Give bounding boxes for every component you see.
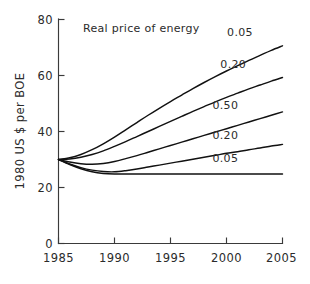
curve-label-1: 0.20 xyxy=(220,58,246,71)
y-tick-label-0: 0 xyxy=(45,237,53,251)
series-line-0.20-upper xyxy=(59,77,283,159)
chart-figure: 80 60 40 20 0 1985 1990 1995 2000 2005 1… xyxy=(0,0,310,284)
curve-label-4: 0.05 xyxy=(213,152,239,165)
curve-label-3: 0.20 xyxy=(213,129,239,142)
x-tick-label-1990: 1990 xyxy=(99,251,130,265)
x-tick-group xyxy=(59,238,227,244)
series-line-0.50 xyxy=(59,112,283,164)
curve-label-2: 0.50 xyxy=(213,99,239,112)
x-tick-label-1985: 1985 xyxy=(43,251,74,265)
x-tick-label-1995: 1995 xyxy=(155,251,186,265)
series-line-0.05-lower xyxy=(59,160,283,175)
x-tick-label-2000: 2000 xyxy=(211,251,242,265)
line-chart: 80 60 40 20 0 1985 1990 1995 2000 2005 1… xyxy=(0,0,310,284)
curve-label-0: 0.05 xyxy=(227,26,253,39)
chart-title: Real price of energy xyxy=(83,22,200,35)
y-tick-label-20: 20 xyxy=(38,181,53,195)
series-line-0.05 xyxy=(59,46,283,160)
y-tick-label-60: 60 xyxy=(38,69,53,83)
y-tick-label-40: 40 xyxy=(38,125,53,139)
series-line-0.20-lower xyxy=(59,144,283,171)
y-axis-title: 1980 US $ per BOE xyxy=(13,73,27,190)
x-tick-label-2005: 2005 xyxy=(266,251,297,265)
series-group xyxy=(59,46,283,174)
y-tick-label-80: 80 xyxy=(38,13,53,27)
